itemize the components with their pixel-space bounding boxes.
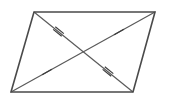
geometry-figure: [0, 0, 177, 111]
geometry-canvas: [0, 0, 177, 111]
